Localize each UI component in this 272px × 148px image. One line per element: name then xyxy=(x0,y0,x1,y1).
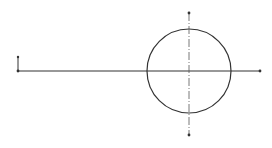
origin-marker-dot-icon xyxy=(17,56,19,58)
line-endpoint-icon xyxy=(259,70,262,73)
centerline-top-endpoint-icon xyxy=(188,12,191,15)
centerline-bottom-endpoint-icon xyxy=(188,134,191,137)
drawing-canvas xyxy=(0,0,272,148)
cad-drawing xyxy=(0,0,272,148)
